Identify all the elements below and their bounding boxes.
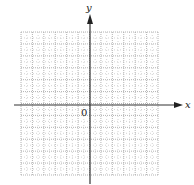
origin-label: 0 xyxy=(81,107,87,118)
x-axis-label: x xyxy=(185,99,191,110)
y-axis-label: y xyxy=(85,2,92,13)
x-axis-arrow-icon xyxy=(174,102,183,108)
y-axis-arrow-icon xyxy=(87,14,93,24)
coordinate-plane: y x 0 xyxy=(0,0,194,185)
